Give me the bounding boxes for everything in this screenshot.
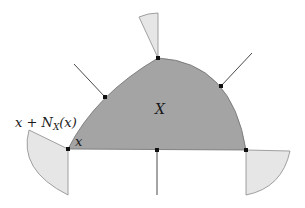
normal-cone-right: [246, 150, 290, 195]
set-label: X: [154, 101, 166, 117]
point-left-boundary: [103, 95, 107, 99]
cone-label-main: x + N: [15, 115, 53, 130]
cone-label: x + NX(x): [15, 115, 77, 132]
point-bottom-mid: [155, 148, 159, 152]
point-label: x: [75, 134, 83, 149]
point-corner-left: [66, 147, 70, 151]
normal-cone-diagram: X x x + NX(x): [0, 0, 305, 208]
normal-ray-right: [221, 53, 252, 86]
normal-cone-left: [27, 130, 68, 195]
point-right-boundary: [219, 84, 223, 88]
cone-label-arg: (x): [59, 115, 76, 130]
normal-ray-left: [74, 64, 105, 97]
point-corner-right: [244, 148, 248, 152]
normal-cone-top: [139, 13, 158, 58]
point-top: [156, 56, 160, 60]
